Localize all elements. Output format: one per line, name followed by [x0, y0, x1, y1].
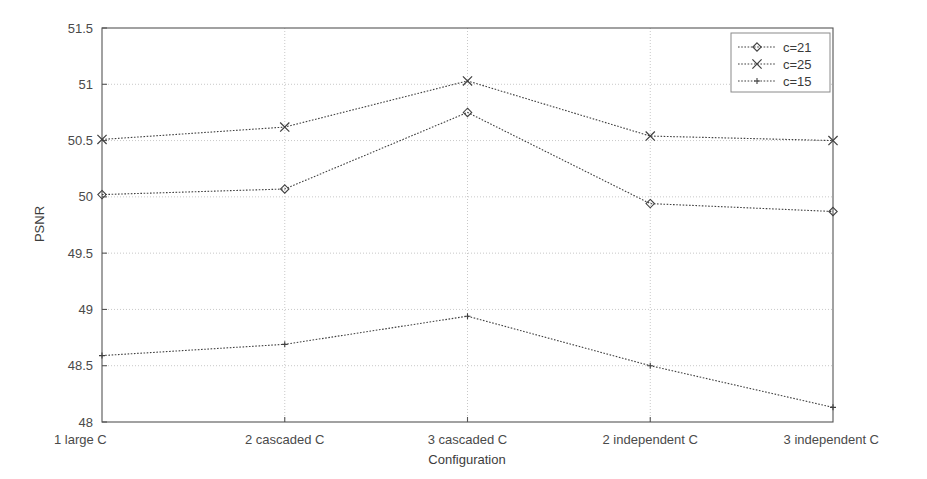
data-point-marker-plus	[647, 363, 653, 369]
y-axis-label: PSNR	[32, 206, 47, 242]
series-c-25	[97, 76, 837, 145]
y-tick-label: 50	[79, 189, 93, 204]
axes-frame	[102, 28, 833, 422]
x-tick-label: 3 cascaded C	[428, 432, 508, 447]
data-point-marker-plus	[465, 313, 471, 319]
grid-lines	[102, 28, 833, 422]
x-tick-label: 2 cascaded C	[245, 432, 325, 447]
x-tick-label: 3 independent C	[784, 432, 879, 447]
y-tick-label: 51.5	[68, 21, 93, 36]
data-point-marker-plus	[99, 353, 105, 359]
series-line	[102, 81, 833, 141]
y-tick-label: 48	[79, 415, 93, 430]
legend-label: c=25	[783, 57, 812, 72]
y-tick-label: 49	[79, 302, 93, 317]
data-point-marker-x	[463, 76, 472, 85]
plot-frame	[102, 28, 833, 422]
chart-plot: 4848.54949.55050.55151.5 1 large C2 casc…	[0, 0, 927, 479]
x-tick-label: 2 independent C	[603, 432, 698, 447]
y-axis-ticks: 4848.54949.55050.55151.5	[68, 21, 107, 430]
x-axis-label: Configuration	[428, 452, 505, 467]
chart-legend: c=21c=25c=15	[731, 33, 830, 92]
data-point-marker-diamond	[646, 199, 654, 207]
y-tick-label: 48.5	[68, 358, 93, 373]
y-tick-label: 51	[79, 77, 93, 92]
legend-box	[731, 33, 830, 92]
y-tick-label: 50.5	[68, 133, 93, 148]
x-tick-label: 1 large C	[54, 432, 107, 447]
y-tick-label: 49.5	[68, 246, 93, 261]
legend-label: c=21	[783, 40, 812, 55]
data-point-marker-plus	[282, 341, 288, 347]
data-series-group	[97, 76, 837, 410]
data-point-marker-plus	[830, 404, 836, 410]
legend-label: c=15	[783, 74, 812, 89]
figure-canvas: 4848.54949.55050.55151.5 1 large C2 casc…	[0, 0, 927, 479]
